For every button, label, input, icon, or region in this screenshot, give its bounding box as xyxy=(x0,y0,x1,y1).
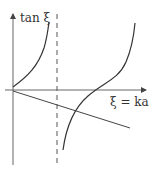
y-axis-label: tan ξ xyxy=(20,11,51,25)
tan-branch-left xyxy=(13,22,49,87)
tan-branch-right xyxy=(63,23,135,150)
x-axis-label: ξ = ka xyxy=(110,95,149,109)
tan-diagram: tan ξ ξ = ka xyxy=(0,0,157,180)
